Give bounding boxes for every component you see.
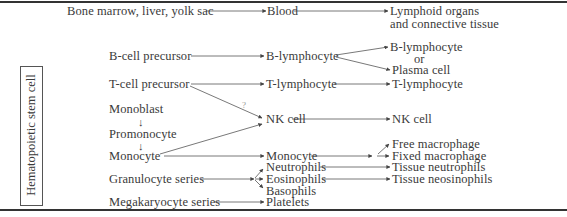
- t-lymphocyte-blood-label: T-lymphocyte: [266, 78, 337, 91]
- destination-label-line2: and connective tissue: [390, 18, 499, 31]
- monoblast-label: Monoblast: [109, 103, 163, 116]
- monocyte-marrow-label: Monocyte: [109, 150, 160, 163]
- nk-cell-blood-label: NK cell: [266, 113, 306, 126]
- t-lymphocyte-tissue-label: T-lymphocyte: [392, 78, 463, 91]
- origin-label: Bone marrow, liver, yolk sac: [67, 5, 214, 18]
- megakaryocyte-series-label: Megakaryocyte series: [109, 196, 220, 209]
- platelets-label: Platelets: [266, 196, 309, 209]
- hematopoietic-stem-cell-label: Hematopoietic stem cell: [24, 74, 39, 195]
- tcell-precursor-label: T-cell precursor: [109, 78, 190, 91]
- b-lymphocyte-blood-label: B-lymphocyte: [266, 50, 339, 63]
- question-mark: ?: [242, 100, 246, 110]
- bcell-precursor-label: B-cell precursor: [109, 50, 191, 63]
- tissue-eosinophils-label: Tissue neosinophils: [392, 173, 492, 186]
- granulocyte-series-label: Granulocyte series: [109, 173, 204, 186]
- b-lymphocyte-tissue-label: B-lymphocyte: [390, 41, 463, 54]
- transit-label: Blood: [267, 5, 298, 18]
- nk-cell-tissue-label: NK cell: [392, 113, 432, 126]
- plasma-cell-label: Plasma cell: [392, 64, 450, 77]
